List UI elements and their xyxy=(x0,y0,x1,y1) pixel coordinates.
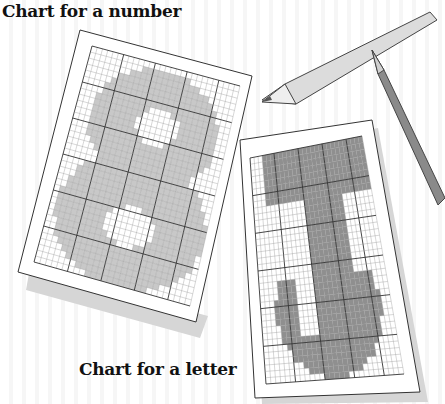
letter-chart-caption: Chart for a letter xyxy=(79,359,236,379)
grid-cell xyxy=(313,361,319,368)
grid-cell xyxy=(279,306,284,313)
grid-cell xyxy=(297,343,302,350)
grid-cell xyxy=(301,336,306,343)
grid-cell xyxy=(303,355,309,362)
grid-cell xyxy=(314,367,320,374)
grid-cell xyxy=(280,313,285,320)
grid-cell xyxy=(308,355,314,362)
grid-cell xyxy=(310,335,315,342)
grid-cell xyxy=(263,168,268,175)
grid-cell xyxy=(267,160,272,167)
grid-cell xyxy=(309,368,315,375)
grid-cell xyxy=(269,186,274,193)
grid-cell xyxy=(303,362,309,369)
grid-cell xyxy=(277,281,282,288)
grid-cell xyxy=(292,298,297,305)
grid-cell xyxy=(278,287,283,294)
grid-cell xyxy=(295,324,300,331)
grid-cell xyxy=(275,313,280,320)
illustration xyxy=(0,0,445,404)
grid-cell xyxy=(264,174,269,181)
grid-cell xyxy=(302,342,307,349)
grid-cell xyxy=(308,361,314,368)
grid-cell xyxy=(281,332,286,339)
grid-cell xyxy=(281,325,286,332)
grid-cell xyxy=(312,354,318,361)
letter-chart-paper xyxy=(240,120,420,398)
number-chart-paper xyxy=(18,30,252,322)
grid-cell xyxy=(268,173,273,180)
grid-cell xyxy=(296,330,301,337)
grid-cell xyxy=(263,161,268,168)
grid-cell xyxy=(266,199,271,206)
grid-cell xyxy=(306,336,311,343)
grid-cell xyxy=(297,349,302,356)
grid-cell xyxy=(291,286,296,293)
grid-cell xyxy=(282,338,287,345)
grid-cell xyxy=(307,348,313,355)
grid-cell xyxy=(276,319,281,326)
grid-cell xyxy=(270,198,275,205)
grid-cell xyxy=(274,300,279,307)
pencil-light-icon xyxy=(262,12,437,104)
grid-cell xyxy=(302,349,307,356)
grid-cell xyxy=(265,193,270,200)
grid-cell xyxy=(267,167,272,174)
grid-cell xyxy=(312,348,318,355)
grid-cell xyxy=(269,192,274,199)
grid-cell xyxy=(298,356,303,363)
grid-cell xyxy=(294,317,299,324)
grid-cell xyxy=(264,180,269,187)
grid-cell xyxy=(279,300,284,307)
number-chart-caption: Chart for a number xyxy=(2,1,181,21)
grid-cell xyxy=(306,342,311,349)
grid-cell xyxy=(296,337,301,344)
grid-cell xyxy=(280,319,285,326)
grid-cell xyxy=(311,342,317,349)
grid-cell xyxy=(278,293,283,300)
grid-cell xyxy=(292,292,297,299)
grid-cell xyxy=(268,179,273,186)
grid-cell xyxy=(275,307,280,314)
grid-cell xyxy=(294,311,299,318)
grid-cell xyxy=(291,279,296,286)
grid-cell xyxy=(293,305,298,312)
grid-cell xyxy=(265,186,270,193)
